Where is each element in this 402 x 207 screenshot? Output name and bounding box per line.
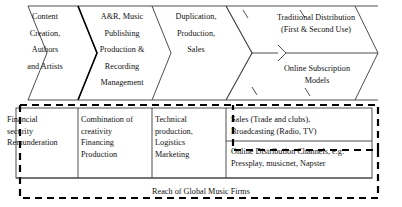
chevron-label-ar-publishing: A&R, Music Publishing Production & Recor…	[88, 9, 156, 92]
diagram-canvas: Content Creation, Authors and Artists A&…	[0, 0, 402, 207]
activity-label-online-distribution-channels: Online Distribution Channels, e.g. Press…	[231, 146, 373, 169]
flow-tick-4	[305, 88, 310, 96]
activity-label-creativity-financing: Combination of creativity Financing Prod…	[81, 114, 149, 160]
distribution-split-chevron	[278, 45, 286, 61]
chevron-label-duplication: Duplication, Production, Sales	[162, 9, 230, 59]
flow-tick-3	[252, 87, 257, 95]
activity-label-sales-broadcasting: Sales (Trade and clubs), Broadcasting (R…	[231, 114, 371, 137]
chevron-label-content-creation: Content Creation, Authors and Artists	[12, 9, 78, 75]
chevron-label-online-subscription: Online Subscription Models	[258, 63, 376, 87]
reach-of-global-music-firms-label: Reach of Global Music Firms	[0, 186, 402, 198]
activity-label-financial-security: Financial security Remunderation	[7, 114, 75, 149]
chevron-label-traditional-distribution: Traditional Distribution (First & Second…	[246, 12, 386, 36]
activity-label-technical-production: Technical production, Logistics Marketin…	[155, 114, 223, 160]
